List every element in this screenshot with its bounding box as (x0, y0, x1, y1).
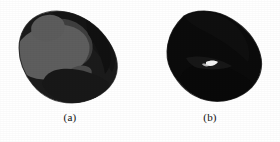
panel-a-caption: (a) (0, 110, 140, 124)
figure-panel-a: (a) (0, 0, 140, 142)
panel-b-caption: (b) (140, 110, 280, 124)
shape-render-a (0, 0, 140, 112)
region-dark-body-b (140, 0, 280, 112)
figure-panel-b: (b) (140, 0, 280, 142)
region-dark-body-a (0, 0, 140, 112)
figure-root: (a) (0, 0, 280, 142)
shape-render-b (140, 0, 280, 112)
